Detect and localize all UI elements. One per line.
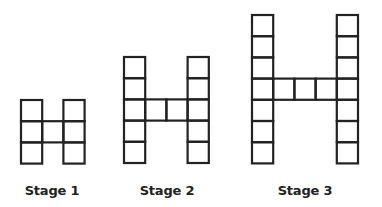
right-column-square bbox=[337, 142, 358, 163]
stage-1-label: Stage 1 bbox=[25, 183, 80, 198]
left-column-square bbox=[124, 99, 145, 120]
right-column-square bbox=[188, 57, 209, 78]
left-column-square bbox=[252, 79, 273, 100]
bridge-square bbox=[145, 99, 166, 120]
right-column-square bbox=[337, 79, 358, 100]
right-column-square bbox=[188, 121, 209, 142]
right-column-square bbox=[337, 15, 358, 36]
right-column-square bbox=[337, 121, 358, 142]
left-column-square bbox=[124, 142, 145, 163]
left-column-square bbox=[21, 142, 42, 163]
bridge-square bbox=[166, 99, 187, 120]
right-column-square bbox=[188, 78, 209, 99]
left-column-square bbox=[124, 78, 145, 99]
left-column-square bbox=[252, 142, 273, 163]
right-column-square bbox=[337, 36, 358, 57]
stage-1-figure bbox=[21, 100, 85, 164]
stage-3-label: Stage 3 bbox=[278, 183, 333, 198]
left-column-square bbox=[252, 121, 273, 142]
stage-2-figure bbox=[124, 57, 209, 163]
right-column-square bbox=[337, 57, 358, 78]
left-column-square bbox=[21, 121, 42, 142]
right-column-square bbox=[63, 142, 84, 163]
left-column-square bbox=[252, 15, 273, 36]
right-column-square bbox=[63, 121, 84, 142]
stage-3-figure bbox=[252, 15, 358, 163]
h-pattern-diagram bbox=[0, 0, 382, 207]
left-column-square bbox=[252, 36, 273, 57]
bridge-square bbox=[316, 79, 337, 100]
bridge-square bbox=[294, 79, 315, 100]
bridge-square bbox=[42, 121, 63, 142]
stage-2-label: Stage 2 bbox=[140, 183, 195, 198]
right-column-square bbox=[63, 100, 84, 121]
left-column-square bbox=[252, 100, 273, 121]
right-column-square bbox=[337, 100, 358, 121]
left-column-square bbox=[124, 57, 145, 78]
left-column-square bbox=[21, 100, 42, 121]
right-column-square bbox=[188, 142, 209, 163]
left-column-square bbox=[252, 57, 273, 78]
bridge-square bbox=[273, 79, 294, 100]
right-column-square bbox=[188, 99, 209, 120]
left-column-square bbox=[124, 121, 145, 142]
